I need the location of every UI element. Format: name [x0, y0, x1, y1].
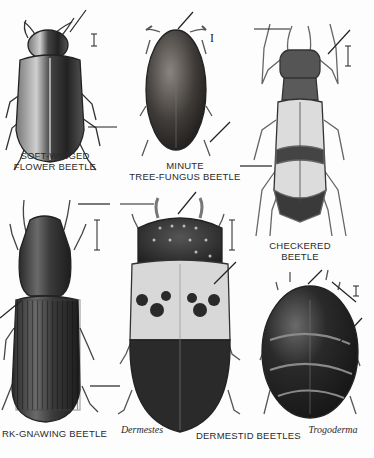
- label-line: CHECKERED: [260, 240, 340, 251]
- soft-winged-flower-beetle: [6, 18, 100, 170]
- label-soft-winged: SOFT-WINGED FLOWER BEETLE: [10, 150, 100, 172]
- dermestes-beetle: [118, 198, 240, 432]
- label-checkered: CHECKERED BEETLE: [260, 240, 340, 262]
- svg-text:I: I: [210, 31, 214, 45]
- beetle-illustrations: I: [0, 0, 374, 458]
- beetle-plate: I: [0, 0, 374, 458]
- label-line: MINUTE: [120, 160, 250, 171]
- label-dermestid: DERMESTID BEETLES: [196, 430, 292, 441]
- label-trogoderma: Trogoderma: [300, 424, 366, 435]
- label-line: BEETLE: [260, 251, 340, 262]
- label-bark-gnawing: RK-GNAWING BEETLE: [2, 428, 100, 439]
- label-dermestes: Dermestes: [112, 424, 172, 435]
- label-tree-fungus: MINUTE TREE-FUNGUS BEETLE: [120, 160, 250, 182]
- checkered-beetle: [254, 24, 346, 236]
- label-line: SOFT-WINGED: [10, 150, 100, 161]
- label-line: FLOWER BEETLE: [10, 161, 100, 172]
- bark-gnawing-beetle: [2, 200, 98, 422]
- label-line: TREE-FUNGUS BEETLE: [120, 171, 250, 182]
- minute-tree-fungus-beetle: [140, 26, 212, 156]
